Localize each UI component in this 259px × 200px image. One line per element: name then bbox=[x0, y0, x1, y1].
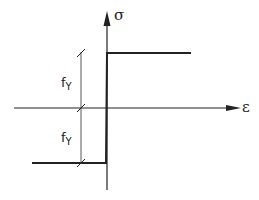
sigma-label: σ bbox=[114, 8, 124, 23]
yield-stress-subscript: Y bbox=[66, 136, 72, 147]
yield-stress-subscript: Y bbox=[66, 81, 72, 92]
stress-strain-diagram bbox=[0, 0, 259, 200]
yield-stress-label-upper: fY bbox=[61, 76, 72, 89]
sigma-axis-arrow-icon bbox=[104, 11, 111, 26]
epsilon-axis-arrow-icon bbox=[226, 105, 241, 111]
epsilon-label: ε bbox=[242, 100, 250, 115]
yield-stress-symbol: f bbox=[61, 75, 66, 90]
yield-stress-label-lower: fY bbox=[61, 131, 72, 144]
yield-stress-symbol: f bbox=[61, 130, 66, 145]
